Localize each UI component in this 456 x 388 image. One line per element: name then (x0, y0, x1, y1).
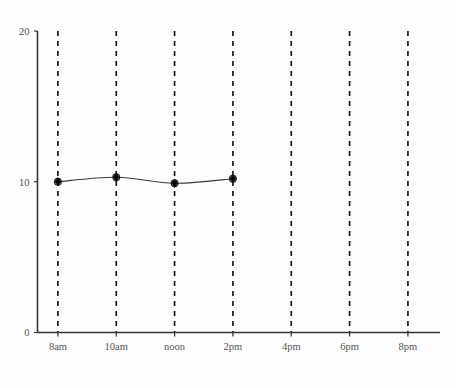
axis-group (38, 31, 441, 333)
chart-container: 01020 8am10amnoon2pm4pm6pm8pm (0, 0, 456, 388)
x-tick-label-2pm: 2pm (224, 341, 243, 352)
x-tick-label-group: 8am10amnoon2pm4pm6pm8pm (49, 341, 417, 352)
data-point-dot-2pm (231, 177, 234, 180)
data-point-dot-10am (115, 176, 118, 179)
x-tick-label-noon: noon (164, 341, 186, 352)
y-tick-label-20: 20 (19, 26, 30, 37)
y-tick-label-0: 0 (24, 327, 29, 338)
x-tick-label-4pm: 4pm (282, 341, 301, 352)
series-line-series-1 (58, 177, 233, 183)
data-point-dot-noon (173, 182, 176, 185)
y-tick-label-group: 01020 (19, 26, 30, 339)
x-tick-label-10am: 10am (105, 341, 128, 352)
data-series-group (58, 177, 233, 183)
x-tick-label-6pm: 6pm (340, 341, 359, 352)
line-chart: 01020 8am10amnoon2pm4pm6pm8pm (0, 0, 456, 388)
x-tick-label-8pm: 8pm (399, 341, 418, 352)
y-tick-label-10: 10 (19, 177, 30, 188)
x-tick-label-8am: 8am (49, 341, 67, 352)
data-point-dot-8am (56, 180, 59, 183)
